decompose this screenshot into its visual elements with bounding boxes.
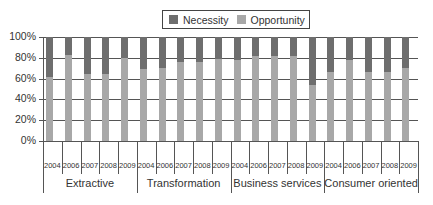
- opportunity-segment: [290, 56, 297, 141]
- opportunity-segment: [234, 60, 241, 141]
- necessity-segment: [290, 37, 297, 56]
- x-group-label: Business services: [231, 177, 325, 189]
- necessity-segment: [252, 37, 259, 56]
- x-group-label: Transformation: [137, 177, 231, 189]
- opportunity-segment: [196, 62, 203, 141]
- necessity-segment: [402, 37, 409, 68]
- x-axis-categories: 2004200620072008200920042006200720082009…: [43, 141, 418, 193]
- opportunity-segment: [65, 55, 72, 141]
- group-divider: [418, 141, 419, 193]
- opportunity-segment: [215, 59, 222, 141]
- stacked-bar: [102, 37, 109, 141]
- y-tick: [39, 99, 43, 100]
- legend-item-opportunity: Opportunity: [237, 14, 305, 26]
- y-tick: [39, 37, 43, 38]
- x-year-label: 2009: [399, 161, 418, 170]
- x-year-label: 2007: [174, 161, 193, 170]
- x-year-label: 2006: [343, 161, 362, 170]
- y-axis-line: [43, 37, 44, 141]
- necessity-segment: [215, 37, 222, 59]
- x-year-label: 2007: [268, 161, 287, 170]
- x-year-label: 2006: [249, 161, 268, 170]
- stacked-bar: [159, 37, 166, 141]
- necessity-segment: [384, 37, 391, 72]
- y-tick-label: 0%: [0, 134, 36, 146]
- necessity-segment: [234, 37, 241, 60]
- y-tick-label: 60%: [0, 72, 36, 84]
- x-year-label: 2009: [212, 161, 231, 170]
- legend-label-necessity: Necessity: [183, 14, 229, 26]
- necessity-segment: [327, 37, 334, 72]
- x-year-label: 2006: [62, 161, 81, 170]
- opportunity-segment: [84, 74, 91, 141]
- y-tick-label: 100%: [0, 30, 36, 42]
- stacked-bar: [65, 37, 72, 141]
- stacked-bar: [215, 37, 222, 141]
- x-group-label: Consumer oriented: [324, 177, 418, 189]
- stacked-bar: [84, 37, 91, 141]
- opportunity-segment: [140, 69, 147, 141]
- necessity-segment: [309, 37, 316, 85]
- opportunity-segment: [309, 85, 316, 141]
- stacked-bar: [309, 37, 316, 141]
- x-year-label: 2009: [118, 161, 137, 170]
- necessity-segment: [346, 37, 353, 60]
- necessity-segment: [177, 37, 184, 62]
- stacked-bar: [196, 37, 203, 141]
- y-tick-label: 20%: [0, 113, 36, 125]
- legend-label-opportunity: Opportunity: [251, 14, 305, 26]
- gridline: [43, 99, 418, 100]
- x-year-label: 2004: [324, 161, 343, 170]
- x-year-label: 2008: [99, 161, 118, 170]
- gridline: [43, 37, 418, 38]
- x-year-label: 2008: [381, 161, 400, 170]
- gridline: [43, 120, 418, 121]
- necessity-segment: [159, 37, 166, 68]
- necessity-segment: [271, 37, 278, 56]
- opportunity-segment: [46, 77, 53, 141]
- necessity-segment: [121, 37, 128, 58]
- necessity-segment: [102, 37, 109, 74]
- opportunity-segment: [365, 72, 372, 141]
- opportunity-segment: [252, 56, 259, 141]
- stacked-bar: [252, 37, 259, 141]
- x-year-label: 2004: [231, 161, 250, 170]
- opportunity-segment: [177, 62, 184, 141]
- stacked-bar: [46, 37, 53, 141]
- necessity-segment: [140, 37, 147, 69]
- y-tick: [39, 79, 43, 80]
- y-tick: [39, 120, 43, 121]
- necessity-swatch-icon: [169, 15, 178, 24]
- x-year-label: 2008: [193, 161, 212, 170]
- stacked-bar: [290, 37, 297, 141]
- stacked-bar: [234, 37, 241, 141]
- necessity-segment: [196, 37, 203, 62]
- opportunity-segment: [271, 56, 278, 141]
- opportunity-swatch-icon: [237, 15, 246, 24]
- plot-area: [43, 37, 418, 141]
- x-year-label: 2007: [362, 161, 381, 170]
- opportunity-segment: [327, 72, 334, 141]
- opportunity-segment: [159, 68, 166, 141]
- y-tick: [39, 58, 43, 59]
- stacked-bar: [177, 37, 184, 141]
- x-year-label: 2008: [287, 161, 306, 170]
- stacked-bar: [346, 37, 353, 141]
- y-tick-label: 40%: [0, 92, 36, 104]
- gridline: [43, 79, 418, 80]
- stacked-bar: [402, 37, 409, 141]
- stacked-bar: [365, 37, 372, 141]
- opportunity-segment: [102, 74, 109, 141]
- legend-item-necessity: Necessity: [169, 14, 229, 26]
- opportunity-segment: [402, 68, 409, 141]
- opportunity-segment: [346, 60, 353, 141]
- x-year-label: 2009: [306, 161, 325, 170]
- stacked-bar: [271, 37, 278, 141]
- x-year-label: 2007: [81, 161, 100, 170]
- x-group-label: Extractive: [43, 177, 137, 189]
- stacked-bar: [327, 37, 334, 141]
- stacked-bar: [384, 37, 391, 141]
- gridline: [43, 58, 418, 59]
- x-year-label: 2004: [137, 161, 156, 170]
- y-tick-label: 80%: [0, 51, 36, 63]
